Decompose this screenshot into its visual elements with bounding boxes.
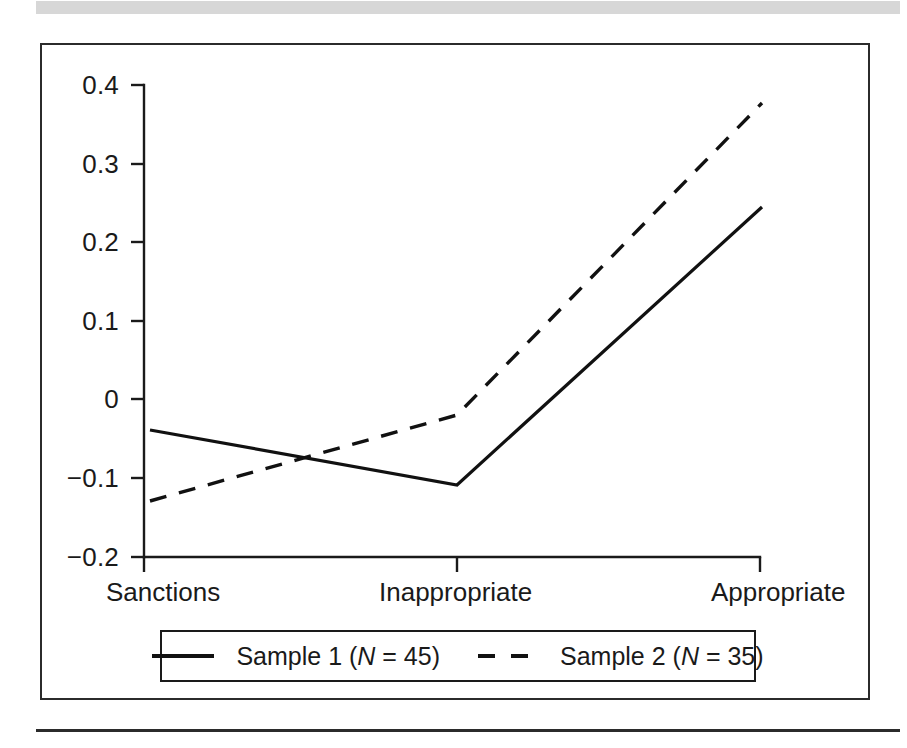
legend-label-sample-2: Sample 2 (N = 35) — [560, 644, 764, 669]
x-tick-label-sanctions: Sanctions — [106, 578, 220, 606]
legend-entry-sample-2: Sample 2 (N = 35) — [476, 644, 764, 669]
y-tick-label-6: −0.2 — [33, 544, 119, 570]
figure-page: 0.4 0.3 0.2 0.1 0 −0.1 −0.2 Sanctions In… — [0, 0, 907, 748]
top-gray-band — [36, 1, 900, 14]
legend-solid-line-icon — [152, 647, 214, 665]
y-tick-label-1: 0.3 — [33, 151, 119, 177]
x-tick-label-appropriate: Appropriate — [711, 578, 845, 606]
y-tick-label-3: 0.1 — [33, 308, 119, 334]
chart-legend: Sample 1 (N = 45) Sample 2 (N = 35) — [160, 630, 756, 682]
legend-label-sample-1: Sample 1 (N = 45) — [236, 644, 440, 669]
legend-label-sample-2-n: N — [681, 642, 699, 670]
x-tick-label-inappropriate: Inappropriate — [379, 578, 532, 606]
legend-entry-sample-1: Sample 1 (N = 45) — [152, 644, 440, 669]
y-tick-label-0: 0.4 — [33, 72, 119, 98]
legend-dashed-line-icon — [476, 647, 538, 665]
legend-label-sample-2-suffix: = 35) — [699, 642, 764, 670]
y-tick-label-5: −0.1 — [33, 465, 119, 491]
legend-label-sample-2-prefix: Sample 2 ( — [560, 642, 681, 670]
bottom-horizontal-rule — [36, 729, 900, 732]
legend-label-sample-1-n: N — [357, 642, 375, 670]
y-tick-label-4: 0 — [33, 386, 119, 412]
legend-label-sample-1-prefix: Sample 1 ( — [236, 642, 357, 670]
y-tick-label-2: 0.2 — [33, 229, 119, 255]
legend-label-sample-1-suffix: = 45) — [375, 642, 440, 670]
